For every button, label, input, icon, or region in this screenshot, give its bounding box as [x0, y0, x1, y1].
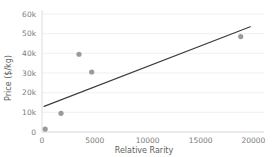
- data-point: [89, 69, 94, 74]
- y-tick-label: 50k: [22, 29, 37, 38]
- scatter-chart: 010k20k30k40k50k60k 05000100001500020000…: [0, 0, 272, 157]
- trend-line: [44, 27, 250, 107]
- chart-canvas: 010k20k30k40k50k60k 05000100001500020000…: [0, 0, 272, 157]
- x-tick-label: 20000: [241, 136, 265, 145]
- axis-lines: [42, 10, 264, 132]
- y-tick-label: 40k: [22, 49, 37, 58]
- data-point: [58, 111, 63, 116]
- y-axis-title: Price ($/kg): [4, 55, 13, 101]
- x-tick-label: 0: [40, 136, 45, 145]
- y-axis-tick-labels: 010k20k30k40k50k60k: [22, 10, 37, 137]
- y-tick-label: 0: [31, 128, 36, 137]
- gridlines: [42, 14, 264, 132]
- x-tick-label: 5000: [85, 136, 104, 145]
- data-point: [238, 34, 243, 39]
- y-tick-label: 30k: [22, 69, 37, 78]
- y-tick-label: 20k: [22, 88, 37, 97]
- x-tick-label: 15000: [189, 136, 213, 145]
- y-tick-label: 60k: [22, 10, 37, 19]
- x-tick-label: 10000: [136, 136, 160, 145]
- x-axis-title: Relative Rarity: [115, 146, 174, 155]
- data-point: [76, 52, 81, 57]
- data-point: [43, 126, 48, 131]
- data-points: [43, 34, 244, 132]
- x-axis-tick-labels: 05000100001500020000: [40, 136, 266, 145]
- trend-line-path: [44, 27, 250, 107]
- y-tick-label: 10k: [22, 108, 37, 117]
